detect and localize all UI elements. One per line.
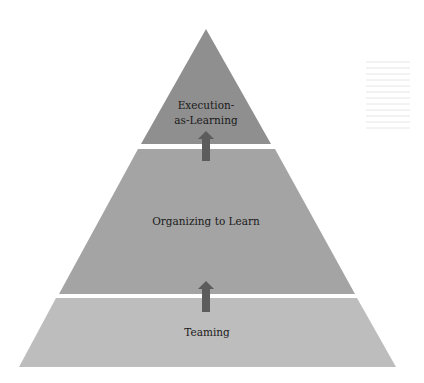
- pyramid-diagram: Execution- as-Learning Organizing to Lea…: [0, 0, 424, 383]
- tier-top-label-line2: as-Learning: [174, 114, 238, 126]
- tier-middle-label: Organizing to Learn: [152, 215, 260, 227]
- tier-top-label-line1: Execution-: [178, 99, 235, 111]
- bleed-through-text: [366, 62, 410, 128]
- pyramid-svg: Execution- as-Learning Organizing to Lea…: [0, 0, 424, 383]
- tier-bottom-label: Teaming: [184, 326, 230, 338]
- tier-top: [141, 29, 271, 144]
